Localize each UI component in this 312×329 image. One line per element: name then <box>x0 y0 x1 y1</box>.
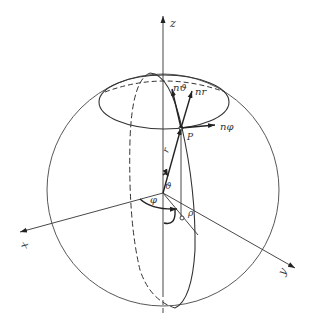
rho-point <box>180 216 184 220</box>
azimuth-hook-arc <box>164 210 175 223</box>
y-axis <box>163 193 295 268</box>
spherical-coordinates-diagram: z x y r ρ ϑ φ P nϑ nr nφ <box>0 0 312 329</box>
y-axis-label: y <box>275 265 290 278</box>
meridian-front <box>150 73 195 308</box>
latitude-circle <box>99 75 229 129</box>
polar-angle-label: ϑ <box>165 181 172 191</box>
azimuth-angle-arc <box>140 199 177 209</box>
z-axis-label: z <box>169 17 176 30</box>
rho-label: ρ <box>187 208 194 218</box>
unit-vector-r <box>181 91 192 128</box>
unit-vector-r-label: nr <box>195 86 207 97</box>
azimuth-angle-label: φ <box>150 194 157 205</box>
unit-vector-phi-label: nφ <box>220 121 233 132</box>
unit-vector-theta <box>172 89 181 128</box>
radius-label: r <box>160 146 171 154</box>
polar-angle-arc <box>163 174 168 176</box>
x-axis-label: x <box>17 240 31 250</box>
unit-vector-theta-label: nϑ <box>173 82 187 93</box>
x-axis <box>20 193 163 232</box>
point-p-label: P <box>186 132 194 142</box>
